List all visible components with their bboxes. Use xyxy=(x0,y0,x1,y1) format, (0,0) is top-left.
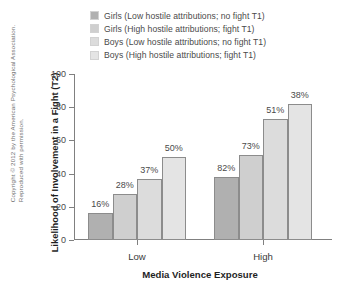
bar-value-label: 28% xyxy=(116,180,134,190)
legend-item-label: Girls (High hostile attributions; fight … xyxy=(104,24,255,34)
plot-area: Likelihood of Involvement in a Fight (T2… xyxy=(74,74,326,240)
bar-value-label: 73% xyxy=(242,141,260,151)
legend-item[interactable]: Girls (High hostile attributions; fight … xyxy=(90,22,334,35)
y-axis-tick xyxy=(69,74,74,75)
x-axis-tick xyxy=(263,240,264,245)
legend-swatch-icon xyxy=(90,51,99,60)
bar-value-label: 37% xyxy=(140,165,158,175)
legend-item-label: Girls (Low hostile attributions; no figh… xyxy=(104,11,265,21)
bar-value-label: 38% xyxy=(291,90,309,100)
bar[interactable] xyxy=(137,179,162,240)
bar-value-label: 82% xyxy=(217,163,235,173)
y-axis-tick-label: 60 xyxy=(56,135,66,145)
legend-item[interactable]: Boys (Low hostile attributions; no fight… xyxy=(90,35,334,48)
legend-swatch-icon xyxy=(90,24,99,33)
bar[interactable] xyxy=(214,177,239,240)
x-axis-group-label: High xyxy=(253,251,273,262)
legend-item-label: Boys (Low hostile attributions; no fight… xyxy=(104,37,266,47)
y-axis-tick-label: 100 xyxy=(51,69,66,79)
bar[interactable] xyxy=(263,119,288,240)
y-axis-tick-label: 40 xyxy=(56,169,66,179)
y-axis-tick xyxy=(69,174,74,175)
y-axis-tick-label: 0 xyxy=(61,235,66,245)
bar[interactable] xyxy=(162,157,187,240)
legend-swatch-icon xyxy=(90,37,99,46)
y-axis-title: Likelihood of Involvement in a Fight (T2… xyxy=(49,51,60,275)
bar[interactable] xyxy=(239,155,264,240)
legend-item[interactable]: Girls (Low hostile attributions; no figh… xyxy=(90,9,334,22)
figure: Copyright © 2012 by the American Psychol… xyxy=(0,0,340,293)
y-axis-tick xyxy=(69,140,74,141)
legend-item-label: Boys (High hostile attributions; fight T… xyxy=(104,50,256,60)
x-axis-tick xyxy=(137,240,138,245)
bar[interactable] xyxy=(288,104,313,240)
x-axis-title: Media Violence Exposure xyxy=(74,269,326,280)
copyright-notice: Copyright © 2012 by the American Psychol… xyxy=(9,6,25,202)
legend-item[interactable]: Boys (High hostile attributions; fight T… xyxy=(90,49,334,62)
bar[interactable] xyxy=(88,213,113,240)
x-axis-group-label: Low xyxy=(128,251,146,262)
y-axis-tick-label: 20 xyxy=(56,202,66,212)
y-axis-tick-label: 80 xyxy=(56,102,66,112)
bar-value-label: 51% xyxy=(266,105,284,115)
y-axis-tick xyxy=(69,107,74,108)
bar-value-label: 16% xyxy=(91,199,109,209)
y-axis-tick xyxy=(69,240,74,241)
chart-legend: Girls (Low hostile attributions; no figh… xyxy=(90,9,334,62)
y-axis-line xyxy=(74,74,75,240)
bar-value-label: 50% xyxy=(165,143,183,153)
legend-swatch-icon xyxy=(90,11,99,20)
y-axis-tick xyxy=(69,207,74,208)
bar[interactable] xyxy=(113,194,138,240)
